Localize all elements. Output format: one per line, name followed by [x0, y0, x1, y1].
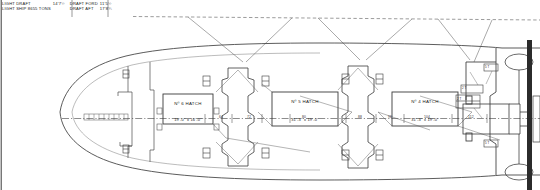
frame-tick-label-2: 80: [302, 115, 306, 119]
stern-mast-column: [527, 40, 540, 190]
light-draft-value: 14'7½: [53, 1, 67, 6]
aft-deckhouse: [463, 104, 532, 134]
frame-tick-label-3: 88: [358, 115, 362, 119]
light-ship-label: LIGHT SHIP 8655 TONS: [2, 6, 53, 11]
frame-tick-label-4: 96: [388, 115, 392, 119]
draft-aft-value: 17'8¾: [100, 6, 114, 11]
hatch-label-4: Nº 4 HATCH 31'-3" x 19'-0": [392, 99, 458, 122]
equipment-label-0: 2 T: [462, 86, 466, 90]
equipment-label-2: 5 T: [485, 141, 489, 145]
hatch-label-6: Nº 6 HATCH 19'-0" x 16'-0": [163, 101, 213, 122]
frame-tick-label-5: 104: [424, 115, 430, 119]
equipment-label-3: 2 T: [457, 97, 461, 101]
frame-tick-label-6: 112: [468, 115, 474, 119]
hatch-label-5: Nº 5 HATCH 31'-3" x 19'-0": [272, 99, 338, 122]
draft-notes-row: LIGHT SHIP 8655 TONS DRAFT AFT 17'8¾: [2, 6, 114, 11]
light-ship-value: [53, 6, 67, 11]
bow-frame-scale: [84, 114, 128, 120]
hatch-5-name: Nº 5 HATCH: [272, 99, 338, 104]
hatch-6-dimension: 19'-0" x 16'-0": [163, 117, 213, 122]
forward-bulkheads: [118, 62, 154, 162]
upper-reference-dashed-line: [133, 17, 540, 21]
small-leaders: [470, 71, 492, 118]
equipment-label-1: 5 T: [485, 65, 489, 69]
draft-notes-block: LIGHT DRAFT 14'7½ DRAFT FORD 11'5½ LIGHT…: [2, 1, 114, 12]
frame-tick-label-1: 72: [247, 115, 251, 119]
leader-lines: [188, 17, 492, 62]
right-equipment-boxes: [456, 64, 498, 147]
ship-plan-svg: [0, 0, 540, 190]
hatch-4-name: Nº 4 HATCH: [392, 99, 458, 104]
deck-plan-drawing: LIGHT DRAFT 14'7½ DRAFT FORD 11'5½ LIGHT…: [0, 0, 540, 190]
frame-tick-label-0: 64: [219, 115, 223, 119]
draft-aft-label: DRAFT AFT: [67, 6, 100, 11]
hatch-6-name: Nº 6 HATCH: [163, 101, 213, 106]
